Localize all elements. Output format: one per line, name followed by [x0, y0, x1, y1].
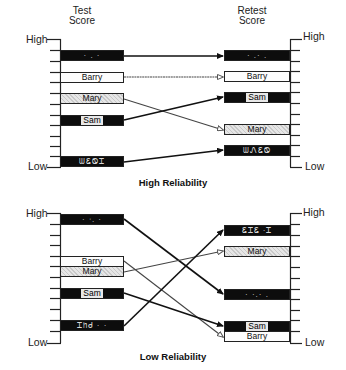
bar-label: Barry — [82, 257, 102, 266]
bar-label: Mary — [83, 267, 102, 276]
test-score-bar-mary: Mary — [60, 93, 124, 104]
test-score-bar-sam: Sam — [60, 115, 124, 126]
bar-label: Mary — [83, 94, 102, 103]
low-reliability-title: Low Reliability — [0, 351, 346, 362]
left-axis-low-reliability — [47, 213, 61, 344]
retest-score-bar-3-low: · ·.· . — [224, 289, 290, 300]
test-score-bar-1-low: · ᐧ. · — [60, 214, 124, 225]
left-axis-low-label-2: Low — [28, 337, 47, 348]
retest-score-bar-barry: Barry — [224, 71, 290, 82]
test-score-bar-5: ᗯᏋᏫᏆ — [60, 156, 124, 167]
bar-noise: ᗯᏋᏫᏆ — [79, 157, 105, 166]
right-axis-high-reliability — [290, 39, 302, 168]
retest-score-bar-mary-low: Mary — [224, 246, 290, 257]
bar-noise: · . · — [84, 51, 101, 60]
low-reliability-connectors — [124, 219, 223, 337]
bar-label: Sam — [246, 93, 267, 102]
retest-score-bar-mary: Mary — [224, 124, 290, 135]
test-score-bar-mary-low: Mary — [60, 266, 124, 277]
bar-noise: · ·.· . — [245, 290, 269, 299]
bar-noise: ᗯᏁᏋᏫ — [243, 146, 271, 155]
test-score-bar-5-low: Ꮖᥒᑯ · · — [60, 320, 124, 331]
bar-noise: · .· . — [247, 51, 267, 60]
test-score-bar-barry: Barry — [60, 72, 124, 83]
bar-label: Sam — [246, 322, 267, 331]
bar-label: Sam — [81, 116, 102, 125]
bar-noise: Ꮖᥒᑯ · · — [77, 321, 108, 330]
bar-label: Barry — [82, 73, 102, 82]
right-axis-low-label-2: Low — [305, 337, 324, 348]
retest-score-bar-1: · .· . — [224, 50, 290, 61]
retest-score-bar-barry-low: Barry — [224, 331, 290, 342]
retest-score-bar-sam: Sam — [224, 92, 290, 103]
bar-label: Barry — [247, 72, 267, 81]
left-axis-high-label-2: High — [26, 208, 48, 219]
bar-label: Sam — [81, 289, 102, 298]
right-axis-high-label-2: High — [303, 207, 325, 218]
retest-score-bar-1-low: ᏋᏆᏋ ·Ꮖ — [224, 225, 290, 236]
left-axis-high-reliability — [47, 39, 61, 168]
retest-score-bar-5: ᗯᏁᏋᏫ — [224, 145, 290, 156]
bar-noise: · ᐧ. · — [82, 215, 102, 224]
bar-label: Mary — [248, 247, 267, 256]
high-reliability-connectors — [124, 56, 223, 162]
bar-label: Barry — [247, 332, 267, 341]
right-axis-low-reliability — [290, 213, 302, 344]
test-score-bar-1: · . · — [60, 50, 124, 61]
test-score-bar-sam-low: Sam — [60, 288, 124, 299]
bar-label: Mary — [248, 125, 267, 134]
high-reliability-title: High Reliability — [0, 177, 346, 188]
bar-noise: ᏋᏆᏋ ·Ꮖ — [242, 226, 273, 235]
